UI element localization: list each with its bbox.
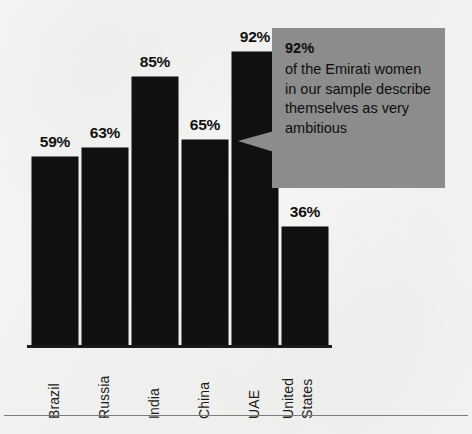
bar-value-china: 65%	[182, 116, 228, 134]
bar-value-india: 85%	[132, 53, 178, 71]
x-axis-label-united-states-line1: United	[280, 378, 296, 419]
x-axis-line	[27, 345, 332, 348]
x-axis-label-russia: Russia	[96, 376, 112, 419]
callout-box: 92% of the Emirati women in our sample d…	[272, 28, 445, 188]
chart-page: 59% 63% 85% 65% 92% 36% Brazil Russia In…	[0, 0, 472, 434]
x-axis-label-united-states-line2: States	[299, 379, 315, 419]
bar-chart-plot-area: 59% 63% 85% 65% 92% 36% Brazil Russia In…	[0, 0, 472, 434]
callout-headline: 92%	[285, 39, 435, 57]
bar-united-states	[282, 227, 328, 345]
bar-russia	[82, 148, 128, 345]
callout-body-text: of the Emirati women in our sample descr…	[285, 60, 435, 138]
footer-divider	[4, 415, 468, 416]
x-axis-label-china: China	[196, 382, 212, 419]
callout-pointer	[238, 131, 274, 152]
bar-china	[182, 140, 228, 345]
bar-value-brazil: 59%	[32, 133, 78, 151]
bar-value-russia: 63%	[82, 124, 128, 142]
bar-value-united-states: 36%	[282, 203, 328, 221]
bar-brazil	[32, 157, 78, 345]
bar-india	[132, 77, 178, 345]
x-axis-label-brazil: Brazil	[46, 383, 62, 419]
